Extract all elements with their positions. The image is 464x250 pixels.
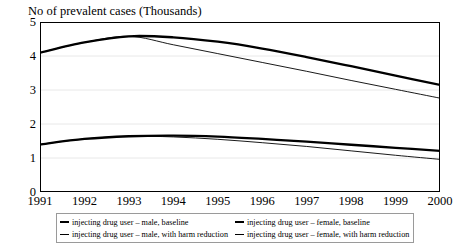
legend-item[interactable]: injecting drug user – male, baseline — [60, 216, 235, 228]
x-axis-tick-label: 1998 — [328, 194, 374, 208]
x-axis-tick-label: 1995 — [195, 194, 241, 208]
x-axis-tick-label: 1994 — [150, 194, 196, 208]
x-axis-tick-label: 1999 — [373, 194, 419, 208]
x-axis-tick-label: 1996 — [239, 194, 285, 208]
legend-item[interactable]: injecting drug user – female, baseline — [235, 216, 410, 228]
chart-figure: No of prevalent cases (Thousands) 012345… — [0, 0, 464, 250]
y-axis-tick-label: 4 — [12, 50, 36, 62]
legend-item-label: injecting drug user – female, with harm … — [247, 230, 409, 239]
series-line — [40, 36, 440, 85]
y-axis-tick-label: 3 — [12, 84, 36, 96]
x-axis-tick-label: 2000 — [417, 194, 463, 208]
y-axis-tick-label: 5 — [12, 16, 36, 28]
x-axis-tick-label: 1991 — [17, 194, 63, 208]
legend-item-label: injecting drug user – female, baseline — [247, 218, 370, 227]
legend-item-label: injecting drug user – male, with harm re… — [72, 230, 228, 239]
legend-item-label: injecting drug user – male, baseline — [72, 218, 188, 227]
plot-frame — [41, 23, 440, 192]
chart-legend: injecting drug user – male, baselineinje… — [56, 213, 414, 243]
legend-item[interactable]: injecting drug user – male, with harm re… — [60, 228, 235, 240]
legend-line-swatch-icon — [60, 221, 69, 223]
legend-line-swatch-icon — [235, 221, 244, 223]
x-axis-tick-label: 1992 — [61, 194, 107, 208]
legend-line-swatch-icon — [235, 234, 244, 235]
legend-item[interactable]: injecting drug user – female, with harm … — [235, 228, 410, 240]
x-axis-tick-label: 1993 — [106, 194, 152, 208]
plot-area — [40, 22, 440, 192]
x-axis-tick-label: 1997 — [284, 194, 330, 208]
x-axis-tick-labels: 1991199219931994199519961997199819992000 — [40, 194, 440, 210]
y-axis-tick-label: 2 — [12, 118, 36, 130]
line-chart-svg — [40, 22, 440, 192]
series-line — [40, 136, 440, 151]
chart-title: No of prevalent cases (Thousands) — [28, 4, 202, 18]
legend-line-swatch-icon — [60, 234, 69, 235]
y-axis-tick-label: 1 — [12, 152, 36, 164]
y-axis-tick-labels: 012345 — [8, 22, 36, 192]
